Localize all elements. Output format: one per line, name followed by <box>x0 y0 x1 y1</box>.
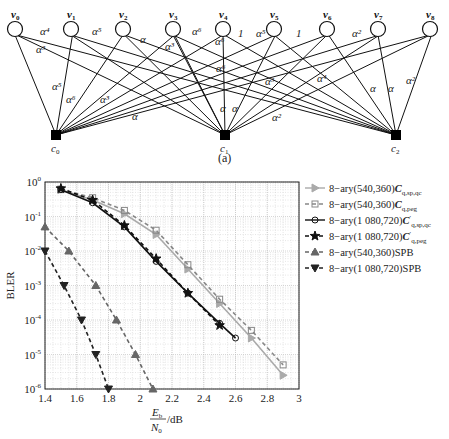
data-point-marker <box>41 248 49 255</box>
edge-weight-label: α <box>388 82 394 94</box>
edge <box>225 35 430 135</box>
variable-node <box>64 22 79 37</box>
edge-weight-label: 1 <box>296 27 302 39</box>
data-point-marker <box>92 352 100 359</box>
edge-weight-label: α⁵ <box>52 80 62 92</box>
edge-weight-label: 1 <box>238 27 244 39</box>
edge-weight-label: α⁶ <box>66 93 76 105</box>
data-point-marker <box>78 317 86 324</box>
edge-weight-label: α⁶ <box>215 35 225 47</box>
y-axis-label: BLER <box>4 271 16 300</box>
edge-weight-label: α <box>140 33 146 45</box>
x-tick-label: 2.6 <box>229 392 243 404</box>
check-node-label: c0 <box>51 142 60 156</box>
legend-entry: 8−ary(540,360)Cq,sp,qc <box>329 183 422 197</box>
check-node <box>391 130 401 140</box>
x-axis-label-numerator: Eb <box>151 406 163 420</box>
y-tick-label: 100 <box>27 175 42 188</box>
variable-node <box>371 22 386 37</box>
edge-weight-label: α <box>370 82 376 94</box>
edge-weight-label: α³ <box>165 40 175 52</box>
data-point-marker <box>60 283 68 290</box>
legend-entry: 8−ary(1 080,720)C′q,peg <box>329 230 427 245</box>
legend-entry: 8−ary(540,360)Cq,peg <box>329 199 418 213</box>
edge-weight-label: α² <box>352 27 362 39</box>
data-point-marker <box>310 231 320 240</box>
x-tick-label: 2 <box>138 392 144 404</box>
x-tick-label: 2.2 <box>165 392 179 404</box>
data-point-marker <box>312 184 319 192</box>
variable-node-label: v6 <box>323 8 332 22</box>
edge-weight-label: α² <box>272 111 282 123</box>
edge-weight-label: α⁵ <box>256 27 266 39</box>
edge <box>56 35 327 135</box>
edge-weight-label: α <box>132 110 138 122</box>
edge-weight-label: α⁵ <box>92 25 102 37</box>
edge-weight-label: α² <box>406 74 416 86</box>
legend-entry: 8−ary(1 080,720)C′q,sp,qc <box>329 214 431 229</box>
x-tick-label: 2.8 <box>260 392 274 404</box>
edge-weight-label: α <box>220 102 226 114</box>
x-tick-label: 2.4 <box>197 392 211 404</box>
edge <box>223 35 225 135</box>
variable-node <box>166 22 181 37</box>
y-tick-label: 10-4 <box>24 313 41 326</box>
data-point-marker <box>131 351 139 358</box>
x-tick-label: 1.6 <box>70 392 84 404</box>
legend-entry: 8−ary(1 080,720)SPB <box>329 263 421 275</box>
edge <box>274 35 396 135</box>
variable-node-label: v2 <box>119 8 128 22</box>
data-point-marker <box>280 371 287 379</box>
variable-node-label: v3 <box>169 8 178 22</box>
edge-weight-label: α³ <box>265 75 275 87</box>
data-point-marker <box>112 316 120 323</box>
edge-weight-label: α⁶ <box>192 25 202 37</box>
variable-node <box>116 22 131 37</box>
edge-weight-label: α <box>232 102 238 114</box>
edge-weight-label: α³ <box>100 93 110 105</box>
y-tick-label: 10-5 <box>24 348 41 361</box>
legend-entry: 8−ary(540,360)SPB <box>329 247 413 259</box>
edge-weight-label: α⁶ <box>216 62 226 74</box>
x-tick-label: 1.8 <box>102 392 116 404</box>
variable-node <box>8 22 23 37</box>
variable-node-label: v7 <box>374 8 383 22</box>
tanner-graph: v0v1v2v3v4v5v6v7v8c0c1c2α⁴α³α⁵αα³α⁶α⁶1α⁵… <box>0 0 449 170</box>
bler-chart: 1.41.61.822.22.42.62.8310010-110-210-310… <box>0 170 449 439</box>
variable-node-label: v5 <box>270 8 279 22</box>
variable-node <box>320 22 335 37</box>
y-tick-label: 10-3 <box>24 279 41 292</box>
variable-node-label: v1 <box>67 8 76 22</box>
x-tick-label: 3 <box>296 392 302 404</box>
edge <box>71 35 225 135</box>
variable-node <box>423 22 438 37</box>
variable-node-label: v0 <box>11 8 20 22</box>
edge-weight-label: α³ <box>36 43 46 55</box>
y-tick-label: 10-2 <box>24 244 41 257</box>
variable-node <box>267 22 282 37</box>
edge-weight-label: α⁴ <box>317 72 327 84</box>
subcaption: (a) <box>218 151 231 165</box>
x-tick-label: 1.4 <box>38 392 52 404</box>
variable-node-label: v4 <box>219 8 228 22</box>
edge-weight-label: α⁴ <box>40 25 50 37</box>
check-node-label: c2 <box>391 142 400 156</box>
x-axis-label-denominator: N0 <box>150 421 162 435</box>
x-axis-unit: /dB <box>167 413 183 425</box>
variable-node-label: v8 <box>426 8 435 22</box>
check-node <box>220 130 230 140</box>
check-node <box>51 130 61 140</box>
y-tick-label: 10-1 <box>24 210 41 223</box>
